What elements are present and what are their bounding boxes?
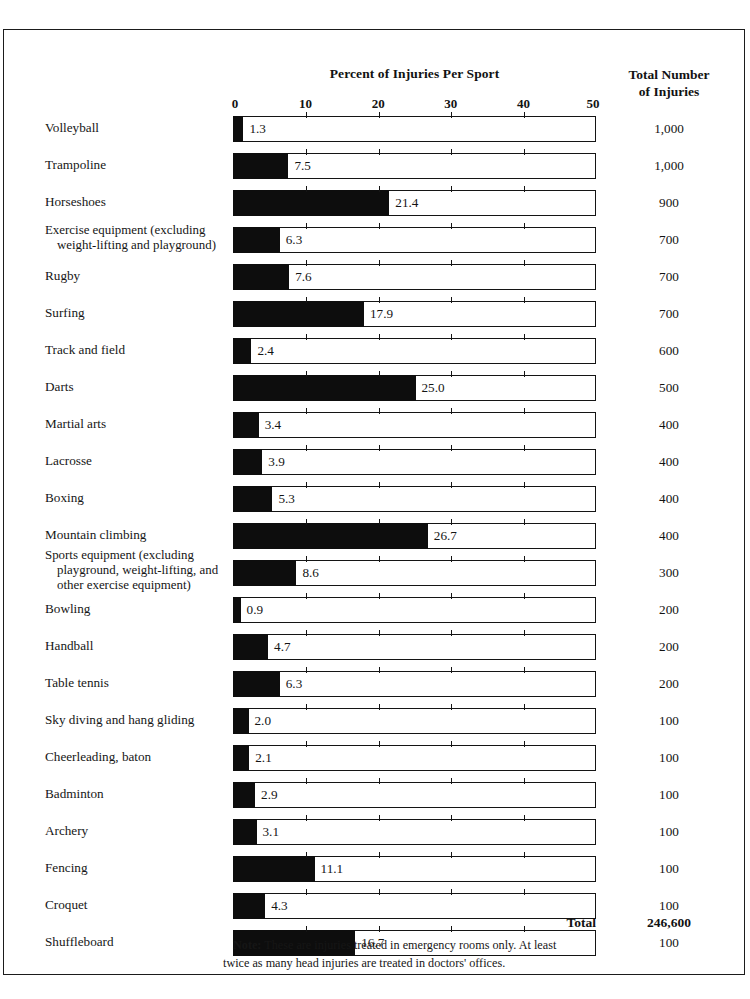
x-axis-tick-mark xyxy=(306,371,307,377)
bar-track: 5.3 xyxy=(233,486,596,512)
bar-fill xyxy=(233,412,259,438)
bar-fill xyxy=(233,523,428,549)
row-label: Table tennis xyxy=(45,675,230,691)
bar-fill xyxy=(233,301,364,327)
row-total-value: 100 xyxy=(608,713,730,729)
bar-track: 6.3 xyxy=(233,671,596,697)
row-label: Darts xyxy=(45,379,230,395)
row-label: Sports equipment (excludingplayground, w… xyxy=(45,548,230,594)
x-axis-tick-label: 30 xyxy=(444,96,457,112)
row-total-value: 1,000 xyxy=(608,158,730,174)
bar-fill xyxy=(233,745,250,771)
x-axis-tick-mark xyxy=(524,667,525,673)
chart-row: Martial arts3.4400 xyxy=(0,409,750,446)
total-label: Total xyxy=(436,915,596,931)
row-label: Archery xyxy=(45,823,230,839)
row-label-line3: other exercise equipment) xyxy=(45,578,230,593)
x-axis-tick-mark xyxy=(451,704,452,710)
bar-fill xyxy=(233,560,297,586)
row-label-line2: playground, weight-lifting, and xyxy=(45,563,230,578)
bar-value-label: 3.9 xyxy=(268,454,284,470)
x-axis-tick-mark xyxy=(524,149,525,155)
x-axis-tick-mark xyxy=(451,630,452,636)
chart-title: Percent of Injuries Per Sport xyxy=(233,66,596,82)
x-axis-tick-mark xyxy=(524,519,525,525)
row-label: Rugby xyxy=(45,268,230,284)
x-axis-tick-mark xyxy=(379,815,380,821)
x-axis-tick-mark xyxy=(451,741,452,747)
row-total-value: 400 xyxy=(608,417,730,433)
row-total-value: 300 xyxy=(608,565,730,581)
x-axis-tick-mark xyxy=(306,260,307,266)
row-total-value: 1,000 xyxy=(608,121,730,137)
x-axis-tick-mark xyxy=(379,593,380,599)
row-label: Lacrosse xyxy=(45,453,230,469)
row-total-value: 700 xyxy=(608,232,730,248)
bar-value-label: 4.7 xyxy=(274,639,290,655)
footnote-line1: These are injuries treated in emergency … xyxy=(261,938,556,952)
row-label: Cheerleading, baton xyxy=(45,749,230,765)
row-label: Sky diving and hang gliding xyxy=(45,712,230,728)
x-axis-tick-mark xyxy=(524,778,525,784)
bar-fill xyxy=(233,819,257,845)
x-axis-tick-labels: 01020304050 xyxy=(233,96,596,112)
chart-row: Sports equipment (excludingplayground, w… xyxy=(0,557,750,594)
x-axis-tick-mark xyxy=(379,852,380,858)
x-axis-tick-mark xyxy=(451,149,452,155)
chart-row: Surfing17.9700 xyxy=(0,298,750,335)
row-total-value: 400 xyxy=(608,491,730,507)
x-axis-tick-mark xyxy=(524,445,525,451)
bar-value-label: 2.9 xyxy=(261,787,277,803)
row-label: Track and field xyxy=(45,342,230,358)
bar-value-label: 2.1 xyxy=(255,750,271,766)
bar-value-label: 0.9 xyxy=(247,602,263,618)
bar-fill xyxy=(233,486,273,512)
x-axis-tick-mark xyxy=(524,371,525,377)
x-axis-tick-mark xyxy=(524,593,525,599)
x-axis-tick-mark xyxy=(306,519,307,525)
x-axis-tick-mark xyxy=(379,778,380,784)
x-axis-tick-mark xyxy=(524,260,525,266)
x-axis-tick-mark xyxy=(306,408,307,414)
bar-value-label: 5.3 xyxy=(278,491,294,507)
row-label: Badminton xyxy=(45,786,230,802)
row-label: Mountain climbing xyxy=(45,527,230,543)
x-axis-tick-mark xyxy=(306,556,307,562)
row-total-value: 100 xyxy=(608,861,730,877)
bar-fill xyxy=(233,671,280,697)
row-label: Trampoline xyxy=(45,157,230,173)
x-axis-tick-mark xyxy=(451,186,452,192)
bar-value-label: 1.3 xyxy=(249,121,265,137)
x-axis-tick-mark xyxy=(451,519,452,525)
x-axis-tick-mark xyxy=(379,297,380,303)
bar-fill xyxy=(233,375,416,401)
x-axis-tick-mark xyxy=(451,482,452,488)
row-label: Croquet xyxy=(45,897,230,913)
bar-track: 7.5 xyxy=(233,153,596,179)
bar-value-label: 7.5 xyxy=(294,158,310,174)
x-axis-tick-mark xyxy=(524,704,525,710)
bar-value-label: 11.1 xyxy=(321,861,344,877)
bar-track: 6.3 xyxy=(233,227,596,253)
x-axis-tick-mark xyxy=(306,593,307,599)
x-axis-tick-mark xyxy=(379,445,380,451)
x-axis-tick-mark xyxy=(306,704,307,710)
x-axis-tick-mark xyxy=(379,741,380,747)
x-axis-tick-mark xyxy=(379,519,380,525)
x-axis-tick-mark xyxy=(306,852,307,858)
chart-row: Fencing11.1100 xyxy=(0,853,750,890)
x-axis-tick-mark xyxy=(379,260,380,266)
x-axis-tick-mark xyxy=(306,482,307,488)
bar-track: 11.1 xyxy=(233,856,596,882)
x-axis-tick-mark xyxy=(306,741,307,747)
row-label: Surfing xyxy=(45,305,230,321)
bar-fill xyxy=(233,708,249,734)
bar-fill xyxy=(233,856,315,882)
bar-fill xyxy=(233,449,263,475)
bar-value-label: 17.9 xyxy=(370,306,393,322)
x-axis-tick-mark xyxy=(451,297,452,303)
x-axis-tick-mark xyxy=(379,482,380,488)
x-axis-tick-mark xyxy=(524,630,525,636)
x-axis-tick-mark xyxy=(524,482,525,488)
x-axis-tick-mark xyxy=(524,223,525,229)
